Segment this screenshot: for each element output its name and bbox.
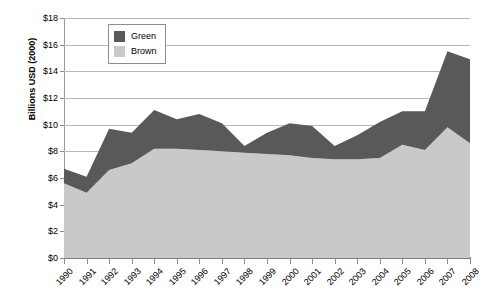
legend-swatch-brown [114,46,125,57]
x-axis-tick-mark [357,259,358,264]
legend-label-green: Green [131,31,156,42]
x-axis-tick-label: 2004 [365,266,390,291]
x-axis-tick-label: 1992 [95,266,120,291]
x-axis-tick-mark [425,259,426,264]
x-axis-tick-mark [222,259,223,264]
x-axis-tick-label: 1993 [117,266,142,291]
y-axis-tick-label: $4 [10,200,58,210]
x-axis-tick-label: 2007 [433,266,458,291]
x-axis-tick-label: 2003 [343,266,368,291]
x-axis-tick-label: 1999 [253,266,278,291]
x-axis-tick-mark [312,259,313,264]
legend-item-green: Green [114,29,157,44]
x-axis-tick-label: 2001 [298,266,323,291]
x-axis-tick-mark [177,259,178,264]
x-axis-tick-mark [199,259,200,264]
x-axis-tick-mark [447,259,448,264]
x-axis-tick-label: 2000 [275,266,300,291]
x-axis-tick-mark [335,259,336,264]
x-axis-tick-mark [64,259,65,264]
legend-swatch-green [114,31,125,42]
x-axis-tick-mark [290,259,291,264]
x-axis-tick-mark [87,259,88,264]
y-axis-tick-label: $18 [10,13,58,23]
x-axis-tick-mark [402,259,403,264]
x-axis-tick-label: 2005 [388,266,413,291]
y-axis-tick-label: $16 [10,40,58,50]
chart-legend: Green Brown [108,24,166,64]
x-axis-tick-label: 1991 [72,266,97,291]
stacked-area-chart: Billions USD (2000) $0$2$4$6$8$10$12$14$… [0,0,493,301]
x-axis-tick-label: 1994 [140,266,165,291]
x-axis-tick-label: 1998 [230,266,255,291]
x-axis-tick-mark [132,259,133,264]
x-axis-tick-label: 1995 [162,266,187,291]
y-axis-tick-label: $0 [10,253,58,263]
x-axis-tick-label: 1997 [207,266,232,291]
x-axis-tick-label: 2006 [410,266,435,291]
y-axis-tick-label: $6 [10,173,58,183]
x-axis-tick-label: 1990 [50,266,75,291]
x-axis-tick-mark [154,259,155,264]
x-axis-tick-mark [244,259,245,264]
x-axis-tick-mark [267,259,268,264]
y-axis-tick-label: $14 [10,66,58,76]
legend-label-brown: Brown [131,46,157,57]
y-axis-tick-label: $2 [10,226,58,236]
x-axis-tick-label: 2008 [456,266,481,291]
x-axis-tick-mark [380,259,381,264]
y-axis-tick-label: $10 [10,120,58,130]
legend-item-brown: Brown [114,44,157,59]
x-axis-tick-label: 2002 [320,266,345,291]
y-axis-tick-label: $8 [10,146,58,156]
y-axis-tick-label: $12 [10,93,58,103]
x-axis-tick-label: 1996 [185,266,210,291]
x-axis-tick-mark [109,259,110,264]
x-axis-tick-mark [470,259,471,264]
